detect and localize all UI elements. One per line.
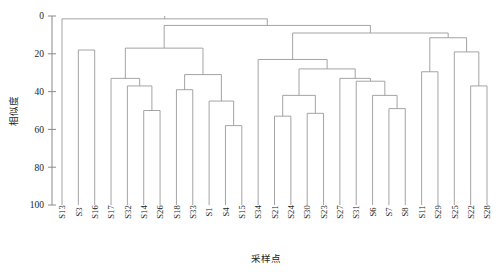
leaf-label-S28: S28: [482, 205, 492, 218]
merge-link-m22: [430, 38, 467, 72]
merge-link-m18: [258, 59, 327, 205]
y-tick-label-40: 40: [35, 87, 45, 97]
merge-link-m11: [307, 113, 323, 205]
leaf-group: S13S3S16S17S32S14S26S18S33S1S4S15S34S21S…: [57, 205, 492, 219]
dendrogram-svg: 020406080100相似度S13S3S16S17S32S14S26S18S3…: [0, 0, 499, 272]
leaf-label-S33: S33: [188, 205, 198, 218]
merge-link-m25: [62, 19, 267, 205]
leaf-label-S23: S23: [319, 205, 329, 218]
leaf-label-S24: S24: [286, 205, 296, 219]
leaf-label-S15: S15: [237, 205, 247, 218]
leaf-label-S8: S8: [400, 207, 410, 216]
merge-link-m23: [293, 33, 449, 59]
merge-link-m16: [340, 78, 371, 205]
leaf-label-S18: S18: [172, 205, 182, 218]
leaf-label-S17: S17: [106, 205, 116, 219]
leaf-label-S25: S25: [450, 205, 460, 218]
merge-link-m7: [176, 90, 192, 205]
y-tick-label-80: 80: [35, 163, 45, 173]
y-tick-label-20: 20: [35, 49, 45, 59]
leaf-label-S7: S7: [384, 207, 394, 217]
leaf-label-S29: S29: [433, 205, 443, 218]
leaf-label-S27: S27: [335, 205, 345, 219]
y-axis-title: 相似度: [8, 96, 19, 126]
link-group: [62, 19, 487, 205]
x-axis-title: 采样点: [251, 253, 281, 264]
leaf-label-S21: S21: [270, 205, 280, 218]
leaf-label-S1: S1: [204, 207, 214, 216]
leaf-label-S16: S16: [90, 205, 100, 219]
merge-link-m4: [111, 78, 140, 205]
leaf-label-S26: S26: [155, 205, 165, 219]
leaf-label-S3: S3: [74, 207, 84, 216]
merge-link-m13: [389, 109, 405, 205]
leaf-label-S34: S34: [253, 205, 263, 219]
dendrogram-chart: 020406080100相似度S13S3S16S17S32S14S26S18S3…: [0, 0, 499, 272]
leaf-label-S14: S14: [139, 205, 149, 219]
merge-link-m14: [373, 95, 398, 205]
merge-link-m3: [127, 86, 152, 205]
merge-link-m9: [125, 48, 203, 78]
leaf-label-S22: S22: [466, 205, 476, 218]
merge-link-m8: [185, 75, 222, 101]
leaf-label-S4: S4: [221, 207, 231, 217]
merge-link-m19: [422, 72, 438, 205]
leaf-label-S30: S30: [302, 205, 312, 218]
leaf-label-S11: S11: [417, 205, 427, 218]
merge-link-m21: [454, 52, 479, 205]
y-axis: 020406080100: [30, 11, 56, 210]
leaf-label-S13: S13: [57, 205, 67, 218]
merge-link-m24: [164, 25, 370, 48]
leaf-label-S31: S31: [351, 205, 361, 218]
leaf-label-S6: S6: [368, 207, 378, 217]
merge-link-m15: [356, 81, 385, 205]
y-tick-label-60: 60: [35, 125, 45, 135]
merge-link-m2: [144, 111, 160, 206]
y-tick-label-100: 100: [30, 200, 45, 210]
merge-link-m20: [471, 86, 487, 205]
merge-link-m10: [275, 116, 291, 205]
y-tick-label-0: 0: [39, 11, 44, 21]
merge-link-m5: [225, 126, 241, 205]
merge-link-m6: [209, 101, 234, 205]
merge-link-m1: [78, 50, 94, 205]
leaf-label-S32: S32: [123, 205, 133, 218]
merge-link-m17: [299, 69, 355, 95]
